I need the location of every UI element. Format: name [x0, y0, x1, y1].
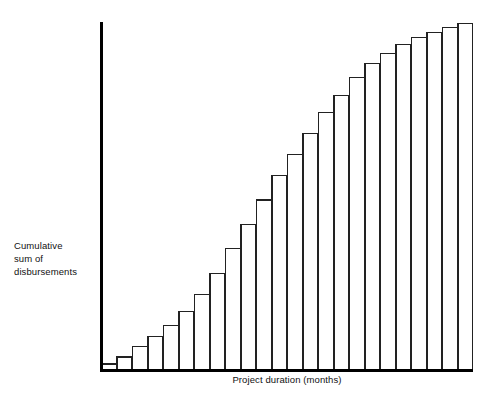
bar — [334, 95, 349, 371]
bar — [179, 312, 194, 371]
bar — [319, 113, 334, 371]
bar — [241, 224, 256, 371]
chart-plot-area — [0, 0, 491, 403]
bar — [195, 294, 210, 371]
bar — [412, 38, 427, 371]
bar — [133, 347, 148, 371]
bar — [288, 155, 303, 371]
bar — [396, 45, 411, 371]
bar — [443, 27, 458, 371]
chart-figure: Cumulative sum of disbursements Project … — [0, 0, 491, 403]
bar — [148, 336, 163, 371]
bar — [303, 134, 318, 371]
bar — [365, 64, 380, 371]
bar-series — [102, 24, 473, 371]
bar — [272, 176, 287, 371]
bar — [257, 200, 272, 371]
bar — [427, 32, 442, 371]
bar — [117, 357, 132, 371]
bar — [226, 249, 241, 371]
bar — [210, 273, 225, 371]
bar — [458, 24, 473, 371]
bar — [164, 326, 179, 371]
bar — [381, 53, 396, 371]
bar — [350, 78, 365, 371]
